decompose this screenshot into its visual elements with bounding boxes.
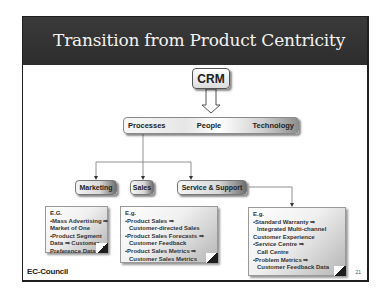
note-line: •Product Sales Forecasts ⇒ <box>125 233 213 241</box>
note-heading: E.G. <box>50 210 103 218</box>
note-line: Customer Experience <box>253 234 341 242</box>
pillars-bar: Processes People Technology <box>123 117 299 134</box>
down-arrow-icon <box>202 89 220 113</box>
note-line: Customer Feedback Data <box>253 264 341 272</box>
page-curl-icon <box>334 266 346 276</box>
note-line: Market of One <box>50 225 103 233</box>
note-line: •Problem Metrics ⇒ <box>253 257 341 265</box>
note-line: •Product Sales Metrics ⇒ <box>125 248 213 256</box>
note-sales: E.g. •Product Sales ⇒ Customer-directed … <box>120 206 218 263</box>
note-heading: E.g. <box>125 210 213 218</box>
dept-service-support: Service & Support <box>177 180 247 195</box>
crm-box: CRM <box>192 68 230 89</box>
note-line: Integrated Multi-channel <box>253 226 341 234</box>
note-line: Customer Feedback <box>125 240 213 248</box>
pillar-technology: Technology <box>252 121 294 130</box>
note-line: •Service Centre ⇒ <box>253 241 341 249</box>
pillar-people: People <box>197 121 222 130</box>
dept-marketing: Marketing <box>75 180 117 195</box>
note-line: •Mass Advertising ⇒ <box>50 218 103 226</box>
page-curl-icon <box>96 243 108 253</box>
ec-council-logo: EC-Council <box>27 267 68 276</box>
pillar-processes: Processes <box>128 121 166 130</box>
dept-service-label: Service & Support <box>182 184 243 191</box>
note-line: •Product Segment <box>50 233 103 241</box>
dept-sales-label: Sales <box>133 184 151 191</box>
note-line: •Standard Warranty ⇒ <box>253 219 341 227</box>
slide: Transition from Product Centricity CRM P… <box>22 16 369 282</box>
note-line: •Product Sales ⇒ <box>125 218 213 226</box>
note-line: Call Centre <box>253 249 341 257</box>
dept-sales: Sales <box>130 180 154 195</box>
note-line: Customer Sales Metrics <box>125 256 213 264</box>
note-marketing: E.G. •Mass Advertising ⇒ Market of One •… <box>45 206 108 253</box>
note-service-support: E.g. •Standard Warranty ⇒ Integrated Mul… <box>248 207 346 276</box>
dept-marketing-label: Marketing <box>79 184 112 191</box>
page-curl-icon <box>206 253 218 263</box>
note-line: Customer-directed Sales <box>125 225 213 233</box>
note-heading: E.g. <box>253 211 341 219</box>
page-number: 21 <box>355 269 361 275</box>
crm-label: CRM <box>197 72 224 86</box>
